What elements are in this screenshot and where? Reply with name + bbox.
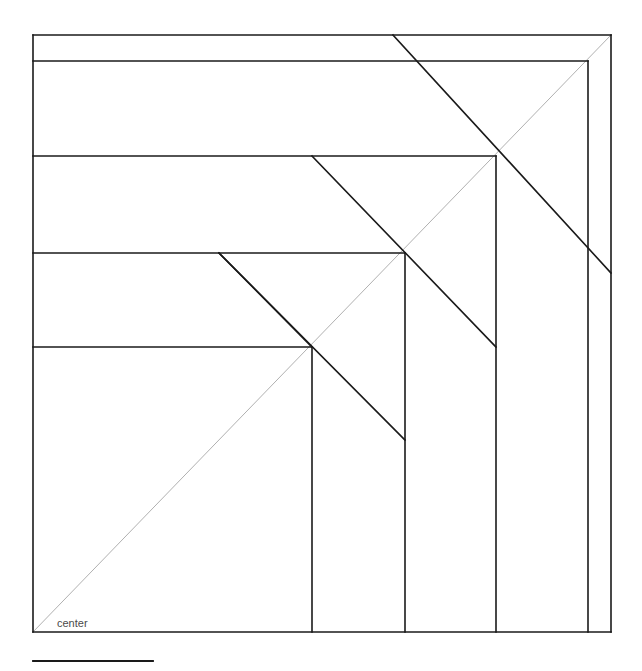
- label-center: center: [57, 617, 88, 629]
- label-layer: center: [57, 617, 88, 629]
- figure-canvas: center: [0, 0, 642, 671]
- geometry-figure: center: [0, 0, 642, 671]
- figure-background: [0, 0, 642, 671]
